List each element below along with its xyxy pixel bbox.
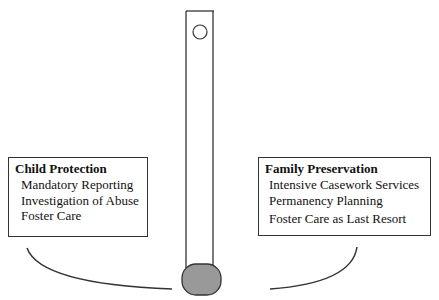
- family-preservation-title: Family Preservation: [265, 161, 424, 177]
- list-item: Foster Care as Last Resort: [265, 211, 424, 227]
- right-scale-arc: [270, 247, 357, 289]
- child-protection-title: Child Protection: [15, 161, 141, 177]
- list-item: Foster Care: [15, 208, 141, 224]
- balance-scale-diagram: [0, 0, 439, 300]
- list-item: Mandatory Reporting: [15, 177, 141, 193]
- list-item: Intensive Casework Services: [265, 177, 424, 193]
- fulcrum-weight: [182, 264, 221, 295]
- bubble-circle-icon: [193, 25, 207, 39]
- child-protection-box: Child Protection Mandatory Reporting Inv…: [8, 157, 148, 237]
- family-preservation-box: Family Preservation Intensive Casework S…: [258, 157, 431, 236]
- list-item: Investigation of Abuse: [15, 193, 141, 209]
- list-item: Permanency Planning: [265, 193, 424, 209]
- left-scale-arc: [27, 248, 172, 289]
